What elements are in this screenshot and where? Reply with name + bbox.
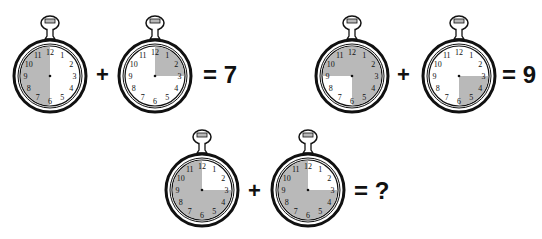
svg-text:9: 9 [176,186,180,195]
svg-text:3: 3 [482,72,486,81]
result-3: = ? [354,179,389,203]
svg-text:11: 11 [443,51,451,60]
svg-text:7: 7 [294,207,298,216]
svg-text:8: 8 [132,84,136,93]
svg-text:12: 12 [304,162,312,171]
plus-sign-1: + [96,64,109,86]
svg-text:4: 4 [221,198,225,207]
svg-text:2: 2 [221,174,225,183]
svg-text:8: 8 [27,84,31,93]
svg-text:9: 9 [129,72,133,81]
svg-text:11: 11 [336,51,344,60]
svg-text:3: 3 [225,186,229,195]
svg-text:6: 6 [153,97,157,106]
svg-text:12: 12 [348,48,356,57]
svg-text:3: 3 [375,72,379,81]
svg-text:7: 7 [445,93,449,102]
svg-text:1: 1 [469,51,473,60]
svg-text:1: 1 [318,165,322,174]
svg-text:10: 10 [177,174,185,183]
svg-text:4: 4 [69,84,73,93]
svg-text:9: 9 [326,72,330,81]
svg-text:4: 4 [327,198,331,207]
svg-text:10: 10 [130,60,138,69]
result-1: = 7 [203,63,237,87]
svg-text:2: 2 [478,60,482,69]
svg-text:10: 10 [283,174,291,183]
svg-text:4: 4 [174,84,178,93]
svg-text:2: 2 [69,60,73,69]
svg-text:8: 8 [285,198,289,207]
svg-text:8: 8 [179,198,183,207]
stopwatch-5: 121234567891011 [162,128,242,239]
svg-text:12: 12 [151,48,159,57]
svg-text:9: 9 [433,72,437,81]
svg-text:12: 12 [46,48,54,57]
svg-text:4: 4 [371,84,375,93]
svg-text:3: 3 [178,72,182,81]
svg-text:5: 5 [212,207,216,216]
svg-text:7: 7 [36,93,40,102]
stopwatch-1: 121234567891011 [10,14,90,126]
plus-sign-3: + [248,180,261,202]
svg-text:8: 8 [329,84,333,93]
svg-text:7: 7 [338,93,342,102]
svg-text:6: 6 [306,211,310,220]
svg-text:2: 2 [174,60,178,69]
svg-text:10: 10 [434,60,442,69]
svg-text:10: 10 [25,60,33,69]
svg-text:4: 4 [478,84,482,93]
svg-text:5: 5 [165,93,169,102]
svg-text:2: 2 [371,60,375,69]
svg-text:11: 11 [292,165,300,174]
svg-text:1: 1 [362,51,366,60]
svg-text:7: 7 [188,207,192,216]
svg-text:11: 11 [186,165,194,174]
svg-text:5: 5 [362,93,366,102]
svg-text:5: 5 [469,93,473,102]
svg-text:9: 9 [24,72,28,81]
svg-text:11: 11 [139,51,147,60]
svg-text:1: 1 [60,51,64,60]
svg-text:1: 1 [212,165,216,174]
stopwatch-2: 121234567891011 [115,14,195,126]
svg-text:9: 9 [282,186,286,195]
svg-text:12: 12 [455,48,463,57]
stopwatch-4: 121234567891011 [419,14,499,126]
svg-text:6: 6 [48,97,52,106]
svg-text:2: 2 [327,174,331,183]
svg-text:5: 5 [60,93,64,102]
stopwatch-3: 121234567891011 [312,14,392,126]
svg-text:6: 6 [350,97,354,106]
svg-text:6: 6 [457,97,461,106]
plus-sign-2: + [397,64,410,86]
svg-text:3: 3 [331,186,335,195]
svg-text:3: 3 [73,72,77,81]
stopwatch-6: 121234567891011 [268,128,348,239]
svg-text:11: 11 [34,51,42,60]
svg-text:5: 5 [318,207,322,216]
svg-text:10: 10 [327,60,335,69]
svg-text:8: 8 [436,84,440,93]
svg-text:7: 7 [141,93,145,102]
svg-text:12: 12 [198,162,206,171]
svg-text:1: 1 [165,51,169,60]
svg-text:6: 6 [200,211,204,220]
result-2: = 9 [502,63,536,87]
